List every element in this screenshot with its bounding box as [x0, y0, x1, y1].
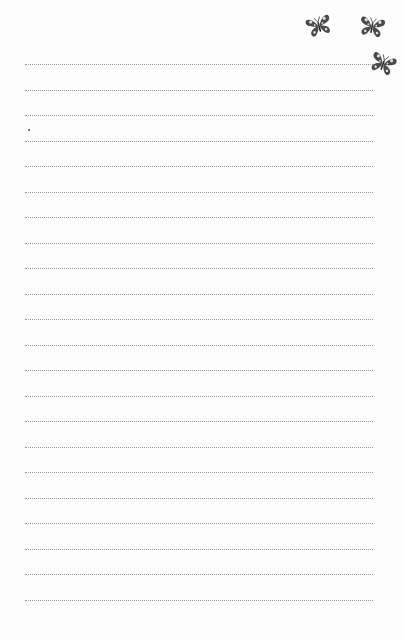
ruled-line: [25, 243, 373, 244]
notepaper-page: [0, 0, 405, 640]
ruled-line: [25, 370, 373, 371]
ruled-line: [25, 115, 373, 116]
ruled-line: [25, 192, 373, 193]
ruled-line: [25, 64, 373, 65]
ruled-line: [25, 600, 373, 601]
butterfly-icon: [303, 10, 335, 42]
ruled-line: [25, 319, 373, 320]
ruled-line: [25, 574, 373, 575]
ruled-line: [25, 498, 373, 499]
ruled-line: [25, 447, 373, 448]
ruled-line: [25, 549, 373, 550]
ruled-line: [25, 472, 373, 473]
butterfly-icon: [366, 47, 399, 80]
ruled-line: [25, 166, 373, 167]
ruled-line: [25, 345, 373, 346]
margin-mark: [28, 129, 30, 131]
butterfly-icon: [357, 12, 387, 42]
ruled-line: [25, 523, 373, 524]
ruled-line: [25, 396, 373, 397]
ruled-line: [25, 294, 373, 295]
ruled-line: [25, 217, 373, 218]
ruled-line: [25, 141, 373, 142]
ruled-line: [25, 268, 373, 269]
ruled-line: [25, 90, 373, 91]
ruled-line: [25, 421, 373, 422]
